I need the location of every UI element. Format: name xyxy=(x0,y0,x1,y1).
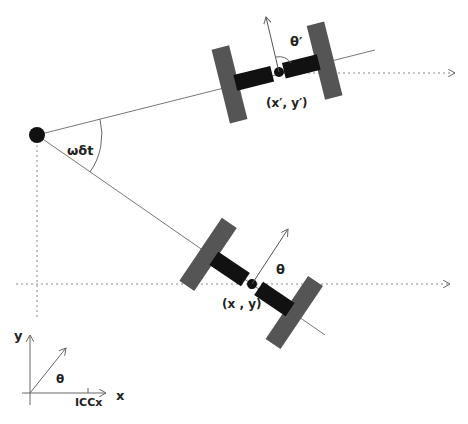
position-label-before: (x , y) xyxy=(222,297,261,311)
icc-point xyxy=(29,127,45,143)
heading-label-after: θ′ xyxy=(290,34,302,49)
heading-label-before: θ xyxy=(276,262,285,277)
heading-arrow-after xyxy=(266,17,279,72)
axis-y-label: y xyxy=(14,328,22,343)
axis-x-label: x xyxy=(116,388,124,403)
robot-before xyxy=(179,218,323,349)
diagram-canvas xyxy=(0,0,468,424)
position-label-after: (x′, y′) xyxy=(266,96,308,110)
axis-theta-vector xyxy=(30,348,66,393)
angle-label: ωδt xyxy=(67,143,93,158)
axis-theta-label: θ xyxy=(56,372,64,386)
icc-x-label: ICCx xyxy=(75,396,102,409)
